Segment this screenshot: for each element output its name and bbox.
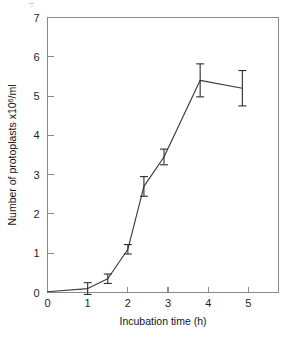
- y-axis-title-prefix: Number of protoplasts x10: [6, 102, 18, 225]
- y-tick-label-2: 2: [33, 208, 39, 220]
- y-tick-label-5: 5: [33, 90, 39, 102]
- scan-artifact: [29, 3, 34, 4]
- y-axis-title-group: Number of protoplasts x106/ml: [6, 84, 18, 225]
- y-axis-title: Number of protoplasts x106/ml: [6, 84, 18, 225]
- x-axis-title: Incubation time (h): [120, 315, 207, 327]
- x-tick-label-4: 4: [205, 297, 211, 309]
- y-tick-label-7: 7: [33, 12, 39, 24]
- scan-artifact: [31, 6, 33, 7]
- y-axis-ticks: [48, 18, 54, 293]
- x-tick-label-2: 2: [125, 297, 131, 309]
- plot-frame: [48, 18, 279, 293]
- y-tick-label-3: 3: [33, 169, 39, 181]
- y-tick-label-6: 6: [33, 51, 39, 63]
- y-axis-title-suffix: /ml: [6, 84, 18, 98]
- x-tick-label-3: 3: [165, 297, 171, 309]
- x-axis-tick-labels: 012345: [44, 297, 251, 309]
- series-line-protoplast-yield: [48, 80, 243, 291]
- line-chart: 01234567 012345 Incubation time (h) Numb…: [0, 0, 288, 337]
- x-tick-label-0: 0: [44, 297, 50, 309]
- y-tick-label-4: 4: [33, 129, 39, 141]
- figure-container: 01234567 012345 Incubation time (h) Numb…: [0, 0, 288, 337]
- y-axis-tick-labels: 01234567: [33, 12, 39, 299]
- x-tick-label-1: 1: [85, 297, 91, 309]
- data-series-group: [48, 80, 243, 291]
- error-bars-group: [84, 64, 247, 295]
- x-tick-label-5: 5: [245, 297, 251, 309]
- y-tick-label-1: 1: [33, 247, 39, 259]
- y-tick-label-0: 0: [33, 287, 39, 299]
